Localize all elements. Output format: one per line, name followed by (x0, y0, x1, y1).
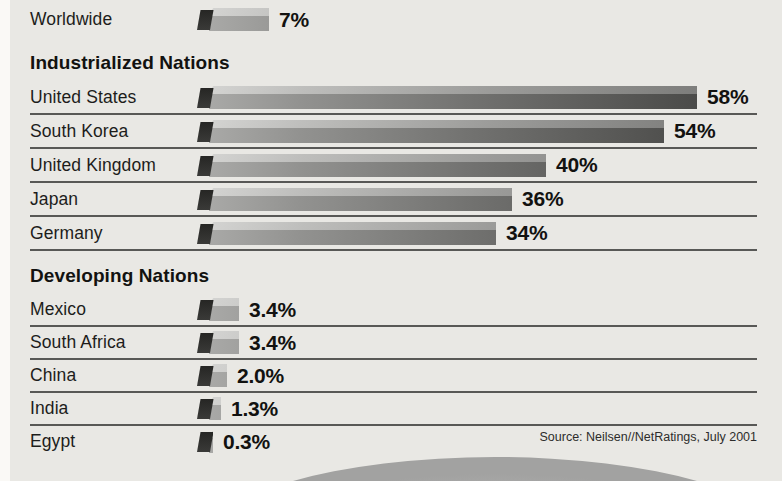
row-label: Egypt (30, 431, 197, 452)
bar-3d (197, 8, 269, 31)
chart-row: China2.0% (30, 360, 757, 393)
bar-front-face (209, 196, 512, 211)
section-worldwide: Worldwide7% (30, 4, 757, 35)
row-label: Worldwide (30, 9, 197, 30)
bar-3d (197, 222, 496, 245)
bar-top-face (208, 120, 664, 128)
bar-and-value: 40% (197, 153, 597, 177)
bar-front-face (209, 94, 697, 109)
bar-top-face (208, 8, 269, 16)
row-label: United States (30, 87, 197, 108)
row-label: South Korea (30, 121, 197, 142)
row-value: 7% (279, 8, 309, 32)
chart-row: South Africa3.4% (30, 327, 757, 360)
bar-3d (197, 120, 664, 143)
bar-and-value: 1.3% (197, 397, 278, 421)
bar-and-value: 58% (197, 85, 748, 109)
bar-3d (197, 364, 227, 387)
section-industrialized: United States58%South Korea54%United Kin… (30, 81, 757, 251)
row-label: Japan (30, 189, 197, 210)
bar-3d (197, 397, 221, 420)
row-value: 34% (506, 221, 547, 245)
bar-top-face (208, 154, 546, 162)
bar-front-face (209, 128, 664, 143)
bar-and-value: 3.4% (197, 298, 296, 322)
row-value: 2.0% (237, 364, 284, 388)
bar-3d (197, 154, 546, 177)
bar-3d (197, 331, 239, 354)
chart-row: South Korea54% (30, 115, 757, 149)
section-header-developing: Developing Nations (30, 265, 757, 287)
bar-and-value: 36% (197, 187, 563, 211)
row-value: 1.3% (231, 397, 278, 421)
bar-and-value: 0.3% (197, 430, 270, 454)
bar-and-value: 2.0% (197, 364, 284, 388)
row-label: China (30, 365, 197, 386)
bar-and-value: 3.4% (197, 331, 296, 355)
row-label: South Africa (30, 332, 197, 353)
row-value: 3.4% (249, 331, 296, 355)
row-value: 3.4% (249, 298, 296, 322)
row-label: Germany (30, 223, 197, 244)
bar-front-face (209, 16, 269, 31)
bar-top-face (208, 222, 496, 230)
chart-row: Japan36% (30, 183, 757, 217)
bar-3d (197, 298, 239, 321)
bar-3d (197, 188, 512, 211)
row-value: 40% (556, 153, 597, 177)
section-header-industrialized: Industrialized Nations (30, 52, 757, 74)
bar-and-value: 54% (197, 119, 715, 143)
row-value: 0.3% (223, 430, 270, 454)
row-label: United Kingdom (30, 155, 197, 176)
chart-row: Mexico3.4% (30, 294, 757, 327)
bar-3d (197, 86, 697, 109)
bar-top-face (208, 188, 512, 196)
bar-and-value: 7% (197, 8, 309, 32)
chart-row: United Kingdom40% (30, 149, 757, 183)
bar-top-face (208, 86, 697, 94)
row-value: 58% (707, 85, 748, 109)
row-value: 54% (674, 119, 715, 143)
bar-3d (197, 430, 213, 453)
chart-row: India1.3% (30, 393, 757, 426)
chart-row: United States58% (30, 81, 757, 115)
bar-front-face (209, 339, 239, 354)
bar-front-face (209, 162, 546, 177)
bar-front-face (209, 306, 239, 321)
bar-front-face (209, 230, 496, 245)
row-label: Mexico (30, 299, 197, 320)
source-note: Source: Neilsen//NetRatings, July 2001 (540, 430, 757, 444)
chart-row: Worldwide7% (30, 4, 757, 35)
bar-chart: Worldwide7%Industrialized NationsUnited … (30, 4, 757, 457)
row-label: India (30, 398, 197, 419)
chart-row: Germany34% (30, 217, 757, 251)
row-value: 36% (522, 187, 563, 211)
bar-and-value: 34% (197, 221, 547, 245)
